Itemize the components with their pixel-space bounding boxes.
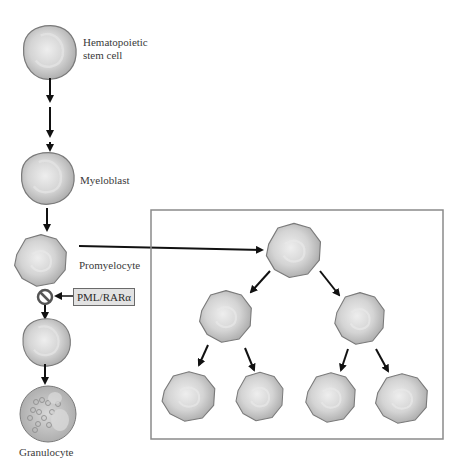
hsc-label: Hematopoietic stem cell <box>83 36 148 62</box>
granulocyte-label: Granulocyte <box>19 446 73 459</box>
arrow-split-left <box>251 271 270 292</box>
promyelocyte-label: Promyelocyte <box>79 259 140 272</box>
arrow-split <box>341 349 348 370</box>
arrow-split <box>245 348 254 370</box>
hsc-cell <box>24 26 77 80</box>
granulocyte-cell <box>20 386 76 442</box>
diagram-canvas <box>0 0 456 465</box>
tree-cell-l3-1 <box>162 372 215 421</box>
tree-cell-l3-2 <box>236 372 283 420</box>
diagram: Hematopoietic stem cell Myeloblast Promy… <box>0 0 456 465</box>
arrow-split <box>199 345 208 365</box>
myeloblast-label: Myeloblast <box>80 174 130 187</box>
tree-cell-l2-right <box>335 293 384 345</box>
myelocyte-cell <box>23 319 70 366</box>
arrow-split-right <box>320 271 339 295</box>
hsc-label-line1: Hematopoietic <box>83 36 148 48</box>
tree-cell-l1 <box>266 223 320 277</box>
arrow-to-expansion <box>79 246 262 250</box>
pml-rara-box: PML/RARα <box>73 288 135 306</box>
tree-cell-l3-4 <box>376 374 428 423</box>
prohibition-icon <box>38 290 52 304</box>
tree-cell-l2-left <box>200 291 252 343</box>
myeloblast-cell <box>22 153 75 205</box>
promyelocyte-cell <box>15 235 67 287</box>
tree-cell-l3-3 <box>306 373 355 422</box>
arrow-split <box>376 349 388 371</box>
hsc-label-line2: stem cell <box>83 49 122 61</box>
